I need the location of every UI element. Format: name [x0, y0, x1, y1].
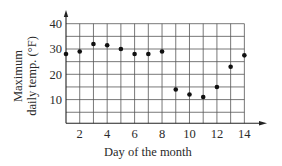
data-point [91, 42, 96, 47]
data-point [132, 52, 137, 57]
y-tick-label: 10 [50, 93, 63, 107]
y-axis-arrow-icon [64, 10, 68, 17]
x-axis-arrow-icon [259, 121, 267, 125]
data-point [228, 64, 233, 69]
y-tick-label: 40 [50, 17, 63, 31]
x-tick-label: 4 [104, 127, 111, 141]
data-point [201, 95, 206, 100]
y-tick-label: 30 [50, 42, 63, 56]
data-points [64, 42, 247, 100]
data-point [119, 47, 124, 52]
data-point [242, 53, 247, 58]
x-tick-label: 14 [238, 127, 251, 141]
x-tick-labels: 2468101214 [77, 127, 252, 141]
data-point [187, 92, 192, 97]
y-tick-label: 20 [50, 68, 63, 82]
data-point [160, 49, 165, 54]
data-point [77, 49, 82, 54]
plot-grid [66, 24, 244, 124]
y-tick-labels: 10203040 [50, 17, 63, 107]
x-tick-label: 6 [131, 127, 137, 141]
data-point [173, 87, 178, 92]
x-tick-label: 12 [211, 127, 224, 141]
x-tick-label: 10 [183, 127, 196, 141]
data-point [64, 52, 69, 57]
plot-axes [64, 10, 267, 126]
data-point [215, 85, 220, 90]
x-tick-label: 8 [159, 127, 165, 141]
scatter-plot: 10203040 2468101214 [0, 0, 282, 166]
x-tick-label: 2 [77, 127, 83, 141]
data-point [146, 52, 151, 57]
data-point [105, 43, 110, 48]
